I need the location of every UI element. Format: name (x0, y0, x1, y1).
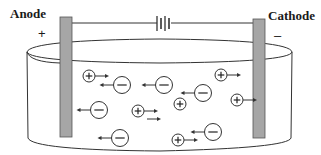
anion (191, 124, 222, 141)
anode-sign: + (38, 26, 46, 41)
anion (77, 102, 108, 119)
cation (172, 134, 198, 146)
cation (215, 69, 241, 81)
anion (181, 85, 212, 102)
cation (174, 98, 186, 110)
cathode-sign: – (274, 28, 282, 43)
ions-layer (77, 69, 258, 147)
anode-electrode (60, 17, 72, 137)
electrolysis-diagram: Anode Cathode + – (0, 0, 321, 155)
anode-label: Anode (10, 6, 46, 21)
anion (100, 77, 131, 94)
cathode-label: Cathode (268, 8, 315, 23)
cathode-electrode (253, 19, 265, 138)
anion (98, 130, 129, 147)
battery-icon (157, 16, 169, 31)
cation (83, 70, 109, 82)
motion-arrow-icon (147, 117, 161, 121)
anion (142, 77, 173, 94)
cation (132, 105, 158, 117)
